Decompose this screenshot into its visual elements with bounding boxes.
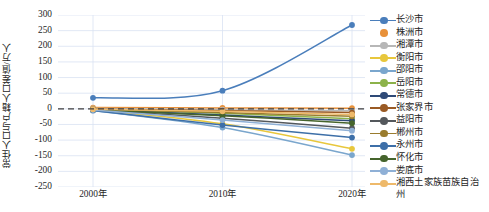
legend-item-label: 张家界市 bbox=[396, 102, 433, 114]
legend-item[interactable]: 株洲市 bbox=[370, 27, 489, 40]
legend-item-label: 永州市 bbox=[396, 139, 424, 151]
series-data-point bbox=[220, 122, 226, 128]
y-axis-tick-label: 50 bbox=[43, 88, 52, 97]
legend-marker-icon bbox=[370, 128, 396, 139]
legend-item[interactable]: 湘西土家族苗族自治州 bbox=[370, 177, 489, 201]
y-axis-tick-label: 150 bbox=[38, 57, 52, 66]
y-axis-tick-label: 200 bbox=[38, 42, 52, 51]
series-data-point bbox=[349, 152, 355, 158]
legend-marker-icon bbox=[370, 90, 396, 101]
legend-item-label: 郴州市 bbox=[396, 127, 424, 139]
legend-marker-icon bbox=[370, 65, 396, 76]
y-axis-title-text: 常住人口与户籍人口差值/万人 bbox=[3, 43, 12, 168]
series-data-point bbox=[349, 135, 355, 141]
legend-item[interactable]: 张家界市 bbox=[370, 102, 489, 115]
legend-marker-icon bbox=[370, 28, 396, 39]
legend-item-label: 邵阳市 bbox=[396, 64, 424, 76]
legend-item[interactable]: 岳阳市 bbox=[370, 77, 489, 90]
y-axis-tick-label: 250 bbox=[38, 26, 52, 35]
x-axis-tick-label: 2020年 bbox=[338, 190, 366, 199]
legend-item-label: 湘西土家族苗族自治州 bbox=[396, 177, 480, 200]
y-axis-tick-label: -100 bbox=[35, 135, 52, 144]
legend-item[interactable]: 益阳市 bbox=[370, 114, 489, 127]
legend-marker-icon bbox=[370, 153, 396, 164]
legend-marker-icon bbox=[370, 53, 396, 64]
plot-area bbox=[58, 15, 365, 187]
legend-item-label: 常德市 bbox=[396, 89, 424, 101]
legend-marker-icon bbox=[370, 78, 396, 89]
legend-item-label: 益阳市 bbox=[396, 114, 424, 126]
x-axis-tick-label: 2000年 bbox=[79, 190, 107, 199]
x-axis-tick-label: 2010年 bbox=[209, 190, 237, 199]
y-axis-tick-label: -250 bbox=[35, 182, 52, 191]
legend-item-label: 株洲市 bbox=[396, 27, 424, 39]
legend-marker-icon bbox=[370, 103, 396, 114]
y-axis-tick-label: 0 bbox=[47, 104, 52, 113]
series-data-point bbox=[349, 120, 355, 126]
legend-marker-icon bbox=[370, 115, 396, 126]
legend-item-label: 娄底市 bbox=[396, 165, 424, 177]
legend-item-label: 岳阳市 bbox=[396, 77, 424, 89]
legend-item[interactable]: 邵阳市 bbox=[370, 64, 489, 77]
series-data-point bbox=[220, 117, 226, 123]
legend-item[interactable]: 永州市 bbox=[370, 139, 489, 152]
series-data-point bbox=[349, 22, 355, 28]
y-axis-tick-label: 300 bbox=[38, 10, 52, 19]
y-axis-tick-labels: 300250200150100500-50-100-150-200-250 bbox=[16, 15, 56, 187]
series-data-point bbox=[349, 146, 355, 152]
legend-marker-icon bbox=[370, 15, 396, 26]
y-axis-tick-label: -150 bbox=[35, 151, 52, 160]
population-difference-line-chart: 常住人口与户籍人口差值/万人 300250200150100500-50-100… bbox=[0, 0, 489, 212]
series-data-point bbox=[349, 128, 355, 134]
legend-item[interactable]: 郴州市 bbox=[370, 127, 489, 140]
legend-item[interactable]: 怀化市 bbox=[370, 152, 489, 165]
y-axis-tick-label: 100 bbox=[38, 73, 52, 82]
chart-legend: 长沙市株洲市湘潭市衡阳市邵阳市岳阳市常德市张家界市益阳市郴州市永州市怀化市娄底市… bbox=[370, 14, 489, 204]
legend-item-label: 湘潭市 bbox=[396, 39, 424, 51]
series-data-point bbox=[349, 112, 355, 118]
legend-marker-icon bbox=[370, 166, 396, 177]
legend-item[interactable]: 长沙市 bbox=[370, 14, 489, 27]
series-data-point bbox=[220, 88, 226, 94]
legend-item[interactable]: 娄底市 bbox=[370, 165, 489, 178]
x-axis-tick-labels: 2000年2010年2020年 bbox=[58, 190, 365, 206]
y-axis-tick-label: -50 bbox=[40, 120, 53, 129]
series-data-point bbox=[90, 95, 96, 101]
legend-marker-icon bbox=[370, 178, 396, 189]
legend-item-label: 长沙市 bbox=[396, 14, 424, 26]
legend-item-label: 怀化市 bbox=[396, 152, 424, 164]
legend-item-label: 衡阳市 bbox=[396, 52, 424, 64]
y-axis-tick-label: -200 bbox=[35, 167, 52, 176]
legend-item[interactable]: 常德市 bbox=[370, 89, 489, 102]
y-axis-title: 常住人口与户籍人口差值/万人 bbox=[0, 0, 16, 212]
legend-marker-icon bbox=[370, 140, 396, 151]
legend-item[interactable]: 湘潭市 bbox=[370, 39, 489, 52]
legend-item[interactable]: 衡阳市 bbox=[370, 52, 489, 65]
plot-svg bbox=[58, 15, 365, 187]
legend-marker-icon bbox=[370, 40, 396, 51]
